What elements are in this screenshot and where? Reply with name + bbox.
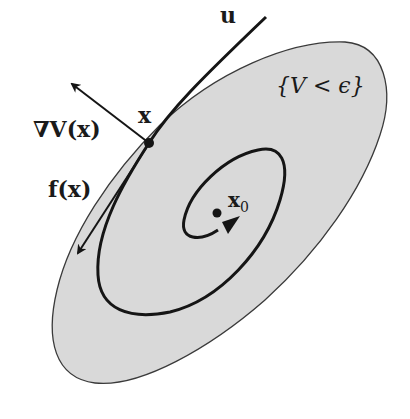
point-x-dot [144, 138, 154, 148]
label-f-x: f(x) [48, 178, 91, 200]
label-x0-sub: 0 [240, 199, 249, 215]
label-x0-base: x [228, 188, 240, 212]
lyapunov-diagram: u x ∇V(x) f(x) x0 {V < ϵ} [0, 0, 410, 419]
equilibrium-x0-dot [213, 209, 222, 218]
label-x: x [138, 104, 151, 126]
label-grad-v: ∇V(x) [33, 118, 101, 140]
diagram-canvas [0, 0, 410, 419]
label-region: {V < ϵ} [276, 75, 365, 97]
label-x0: x0 [228, 190, 249, 210]
label-u: u [220, 4, 236, 26]
